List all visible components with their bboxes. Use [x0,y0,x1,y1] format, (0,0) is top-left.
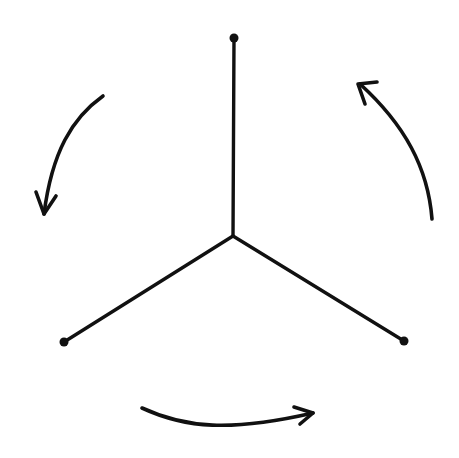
spoke-end-dot-bottom-right [400,337,409,346]
spoke-end-dot-bottom-left [60,338,69,347]
spoke-bottom-right [233,236,404,341]
spoke-bottom-left [64,236,233,342]
rotation-arrow-left [44,96,103,214]
spoke-end-dot-top [230,34,239,43]
diagram-svg [0,0,459,458]
rotation-arrow-bottom [142,408,313,425]
rotation-diagram [0,0,459,458]
spoke-top [233,38,234,236]
rotation-arrow-right [360,84,432,219]
